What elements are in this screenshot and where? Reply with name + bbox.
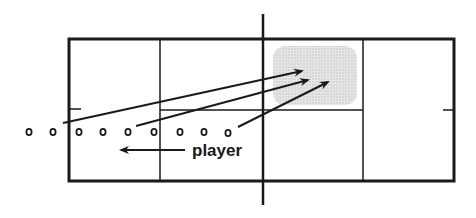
shot-arrow-1 <box>63 71 302 123</box>
player-marker <box>201 129 206 135</box>
player-marker <box>177 129 182 135</box>
player-marker <box>125 129 130 135</box>
player-marker <box>76 129 81 135</box>
player-label: player <box>192 141 242 160</box>
player-marker <box>100 129 105 135</box>
player-marker <box>26 129 31 135</box>
player-marker <box>225 130 230 136</box>
court-diagram: player <box>0 0 476 218</box>
player-positions <box>26 129 230 136</box>
player-marker <box>151 129 156 135</box>
player-marker <box>50 129 55 135</box>
